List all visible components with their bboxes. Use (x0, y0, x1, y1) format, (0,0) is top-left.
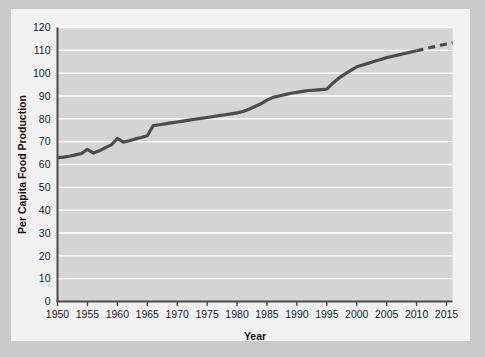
y-tick-label: 120 (33, 21, 51, 33)
y-tick-label: 110 (34, 44, 51, 56)
y-tick-label: 70 (39, 135, 51, 147)
x-tick-label: 1985 (255, 308, 279, 320)
x-axis-tick-labels: 1950195519601965197019751980198519901995… (46, 308, 459, 320)
plot-wrapper: 0102030405060708090100110120 19501955196… (0, 0, 485, 357)
x-tick-label: 1955 (76, 308, 100, 320)
x-tick-label: 2000 (345, 308, 369, 320)
y-tick-label: 20 (39, 250, 51, 262)
y-tick-label: 80 (39, 113, 51, 125)
y-tick-label: 90 (39, 90, 51, 102)
x-tick-label: 1980 (225, 308, 249, 320)
chart-figure: 0102030405060708090100110120 19501955196… (0, 0, 485, 357)
y-tick-label: 30 (39, 227, 51, 239)
y-tick-label: 40 (39, 204, 51, 216)
x-tick-label: 2010 (405, 308, 429, 320)
y-tick-label: 50 (39, 181, 51, 193)
x-tick-label: 1965 (136, 308, 160, 320)
y-tick-label: 10 (39, 272, 51, 284)
y-tick-label: 60 (39, 158, 51, 170)
y-tick-label: 0 (45, 295, 51, 307)
x-tick-label: 1960 (106, 308, 130, 320)
line-chart: 0102030405060708090100110120 19501955196… (0, 0, 485, 357)
x-axis-title: Year (244, 330, 266, 342)
x-tick-label: 1970 (166, 308, 190, 320)
x-tick-label: 1995 (315, 308, 339, 320)
x-tick-label: 2015 (435, 308, 459, 320)
x-tick-label: 1950 (46, 308, 70, 320)
y-axis-title: Per Capita Food Production (16, 95, 28, 234)
y-tick-label: 100 (33, 67, 51, 79)
x-tick-label: 1990 (285, 308, 309, 320)
x-tick-label: 1975 (195, 308, 219, 320)
x-tick-label: 2005 (375, 308, 399, 320)
y-axis-tick-labels: 0102030405060708090100110120 (33, 21, 51, 307)
